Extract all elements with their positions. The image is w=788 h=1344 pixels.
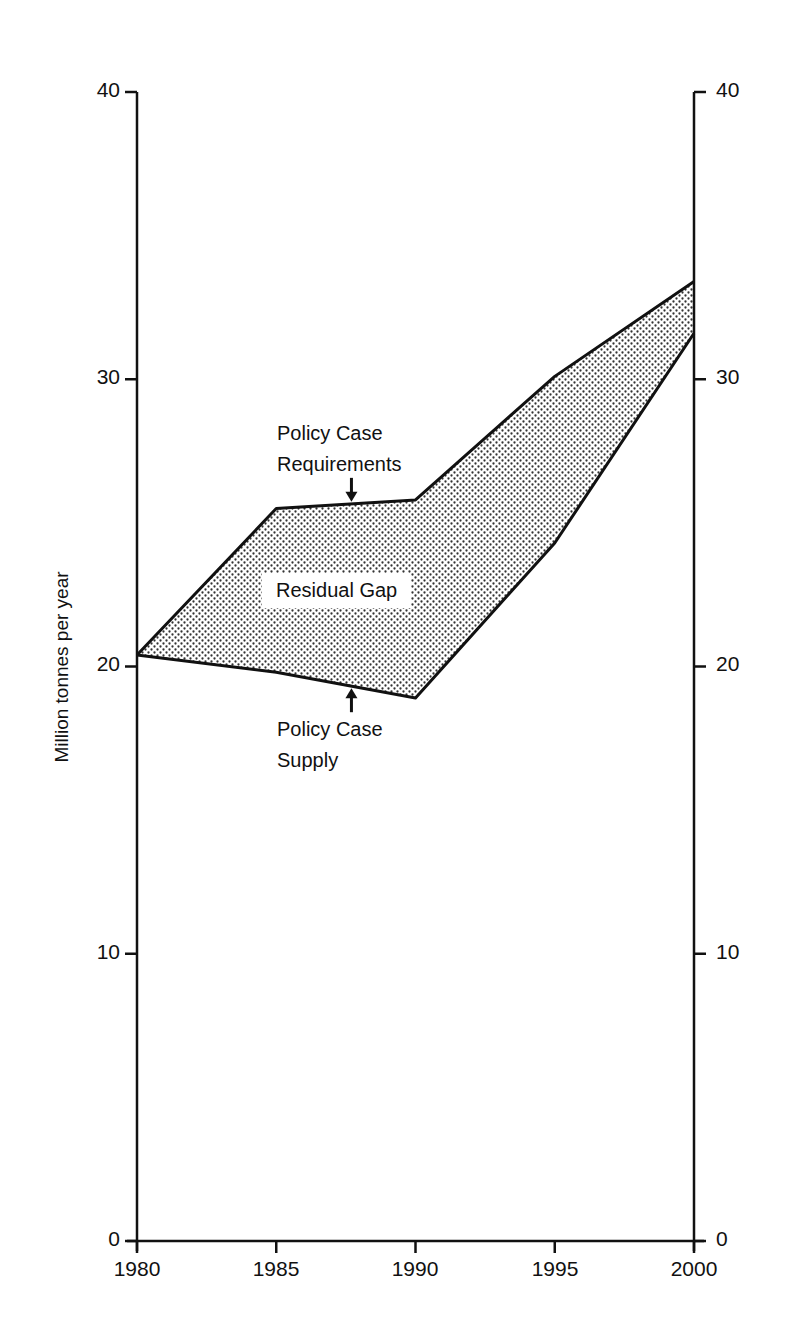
- x-tick-1995: 1995: [515, 1257, 595, 1281]
- requirements-label-line2: Requirements: [277, 449, 402, 480]
- supply-annotation: Policy Case Supply: [277, 714, 383, 776]
- y-tick-left-40: 40: [60, 78, 120, 102]
- y-tick-left-20: 20: [60, 652, 120, 676]
- y-tick-left-10: 10: [60, 940, 120, 964]
- supply-label-line2: Supply: [277, 745, 383, 776]
- requirements-annotation: Policy Case Requirements: [277, 418, 402, 480]
- y-tick-right-20: 20: [716, 652, 776, 676]
- supply-label-line1: Policy Case: [277, 714, 383, 745]
- residual-gap-area: [137, 282, 694, 699]
- y-tick-right-40: 40: [716, 78, 776, 102]
- plot-area: [125, 92, 706, 1253]
- residual-gap-label: Residual Gap: [262, 573, 411, 608]
- supply-arrow-icon: [345, 688, 357, 698]
- requirements-label-line1: Policy Case: [277, 418, 402, 449]
- x-tick-1985: 1985: [236, 1257, 316, 1281]
- y-tick-right-30: 30: [716, 365, 776, 389]
- x-tick-1980: 1980: [97, 1257, 177, 1281]
- x-tick-1990: 1990: [375, 1257, 455, 1281]
- requirements-arrow-icon: [345, 492, 357, 502]
- y-tick-left-30: 30: [60, 365, 120, 389]
- x-tick-2000: 2000: [654, 1257, 734, 1281]
- y-tick-right-10: 10: [716, 940, 776, 964]
- y-tick-right-0: 0: [716, 1227, 776, 1251]
- y-tick-left-0: 0: [60, 1227, 120, 1251]
